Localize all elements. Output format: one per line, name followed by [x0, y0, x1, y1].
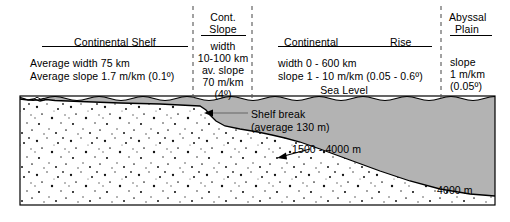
diagram-canvas: Continental Shelf Average width 75 km Av…: [0, 0, 510, 222]
zone-heading-cont-slope-line2: Slope: [209, 23, 236, 35]
zone-heading-continental-rise-word1: Continental: [284, 36, 338, 48]
zone-heading-cont-slope-line1: Cont.: [210, 11, 236, 23]
zone-heading-abyssal-plain-line1: Abyssal: [449, 11, 487, 23]
shelf-detail-width: Average width 75 km: [30, 57, 130, 69]
zone-heading-continental-rise-word2: Rise: [390, 36, 411, 48]
rise-detail-width: width 0 - 600 km: [278, 57, 357, 69]
abyssal-detail-slope-degrees: (0.05º): [450, 80, 482, 92]
sea-level-label: Sea Level: [320, 84, 368, 96]
abyssal-detail-slope-label: slope: [450, 56, 476, 68]
zone-heading-continental-shelf: Continental Shelf: [74, 36, 156, 48]
annotation-slope-depth-range: 1500 - 4000 m: [292, 143, 361, 155]
slope-detail-slope-degrees: (4º): [214, 88, 231, 100]
annotation-shelf-break-line1: Shelf break: [251, 108, 305, 120]
shelf-detail-slope: Average slope 1.7 m/km (0.1º): [30, 70, 174, 82]
slope-detail-width-value: 10-100 km: [198, 52, 249, 64]
annotation-abyssal-depth: 4000 m: [437, 184, 473, 196]
slope-detail-slope-value: 70 m/km: [203, 76, 244, 88]
zone-heading-abyssal-plain-line2: Plain: [455, 23, 479, 35]
annotation-shelf-break-line2: (average 130 m): [251, 121, 330, 133]
abyssal-detail-slope-value: 1 m/km: [450, 68, 485, 80]
rise-detail-slope: slope 1 - 10 m/km (0.05 - 0.6º): [278, 70, 423, 82]
slope-detail-slope-label: av. slope: [202, 64, 244, 76]
slope-detail-width-label: width: [210, 40, 235, 52]
